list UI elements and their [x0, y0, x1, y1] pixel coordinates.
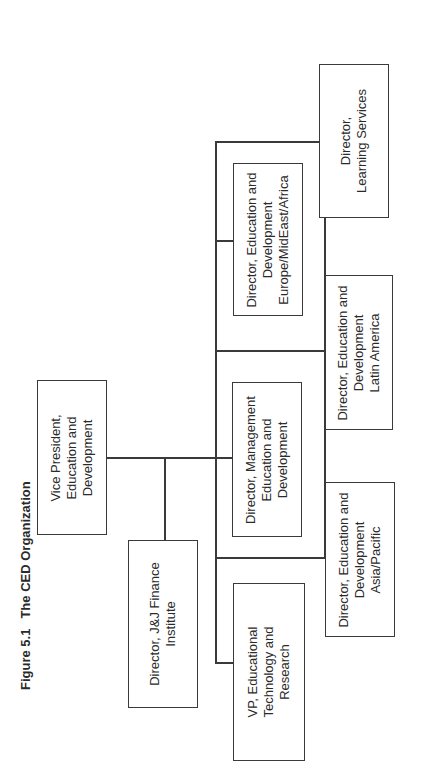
box-director-europe: Director, Education and Development Euro…: [233, 163, 303, 316]
box-line: Vice President,: [48, 414, 64, 501]
box-line: Director, Education and: [335, 285, 351, 420]
box-line: Development: [352, 492, 368, 627]
box-line: VP, Educational: [245, 626, 261, 717]
box-line: Director,: [338, 89, 354, 193]
connector-top-branch: [215, 141, 325, 143]
box-line: Development: [260, 172, 276, 307]
box-line: Development: [351, 285, 367, 420]
box-line: Education and: [259, 396, 275, 524]
org-chart-canvas: Vice President, Education and Developmen…: [0, 0, 421, 775]
connector-main-spine: [215, 141, 217, 663]
box-line: Research: [277, 626, 293, 717]
connector-edtech: [215, 662, 233, 664]
box-line: Institute: [163, 562, 179, 686]
figure-title: The CED Organization: [18, 481, 33, 618]
box-line: Director, Management: [243, 396, 259, 524]
box-director-asia-pacific: Director, Education and Development Asia…: [325, 482, 395, 637]
connector-root-bus: [106, 457, 216, 459]
box-line: Education and: [64, 414, 80, 501]
connector-asia-pacific: [215, 557, 325, 559]
box-line: Asia/Pacific: [368, 492, 384, 627]
box-director-latin-america: Director, Education and Development Lati…: [325, 275, 393, 430]
connector-management: [215, 457, 233, 459]
box-line: Director, Education and: [244, 172, 260, 307]
box-line: Director, J&J Finance: [147, 562, 163, 686]
box-line: Latin America: [367, 285, 383, 420]
box-line: Development: [275, 396, 291, 524]
box-director-learning-services: Director, Learning Services: [319, 64, 389, 218]
box-director-management-ed: Director, Management Education and Devel…: [232, 382, 302, 537]
connector-latin-america: [215, 350, 325, 352]
connector-europe: [215, 240, 233, 242]
connector-finance-drop: [164, 457, 166, 541]
box-line: Development: [80, 414, 96, 501]
box-line: Europe/MidEast/Africa: [276, 172, 292, 307]
box-vp-ed-tech: VP, Educational Technology and Research: [233, 583, 305, 761]
figure-caption: Figure 5.1The CED Organization: [18, 481, 33, 690]
box-line: Director, Education and: [336, 492, 352, 627]
box-line: Technology and: [261, 626, 277, 717]
box-vp-education-development: Vice President, Education and Developmen…: [37, 380, 107, 535]
box-director-jj-finance: Director, J&J Finance Institute: [128, 540, 198, 708]
box-line: Learning Services: [354, 89, 370, 193]
figure-number: Figure 5.1: [18, 629, 33, 690]
